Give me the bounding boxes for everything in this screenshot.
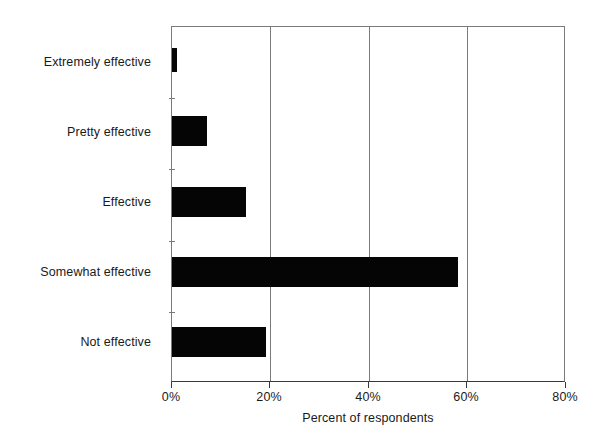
category-label-text: Extremely effective [44,55,151,69]
x-tick-label-20: 20% [256,390,281,404]
category-label-text: Effective [102,195,151,209]
x-tick-60 [466,382,467,388]
plot-area [171,26,565,382]
x-tick-0 [171,382,172,388]
category-tick-4 [169,312,175,313]
category-tick-1 [169,98,175,99]
category-label-text: Not effective [80,335,151,349]
x-tick-80 [565,382,566,388]
category-label-text: Somewhat effective [40,265,151,279]
bar-not-effective [172,327,266,357]
x-tick-40 [368,382,369,388]
bar-extremely-effective [172,48,177,72]
x-tick-20 [269,382,270,388]
category-label-effective: Effective [0,195,161,209]
x-tick-label-40: 40% [355,390,380,404]
bar-somewhat-effective [172,257,458,287]
bar-pretty-effective [172,116,207,146]
x-tick-label-0: 0% [162,390,180,404]
category-tick-3 [169,241,175,242]
x-tick-label-60: 60% [453,390,478,404]
category-label-not-effective: Not effective [0,335,161,349]
category-tick-2 [169,169,175,170]
category-label-text: Pretty effective [67,125,151,139]
x-tick-label-80: 80% [552,390,577,404]
x-axis-title: Percent of respondents [171,411,565,425]
gridline-40 [369,27,370,381]
gridline-60 [467,27,468,381]
gridline-20 [270,27,271,381]
bar-chart: Extremely effective Pretty effective Eff… [0,0,607,443]
category-label-pretty-effective: Pretty effective [0,125,161,139]
category-label-extremely-effective: Extremely effective [0,55,161,69]
bar-effective [172,187,246,217]
category-label-somewhat-effective: Somewhat effective [0,265,161,279]
